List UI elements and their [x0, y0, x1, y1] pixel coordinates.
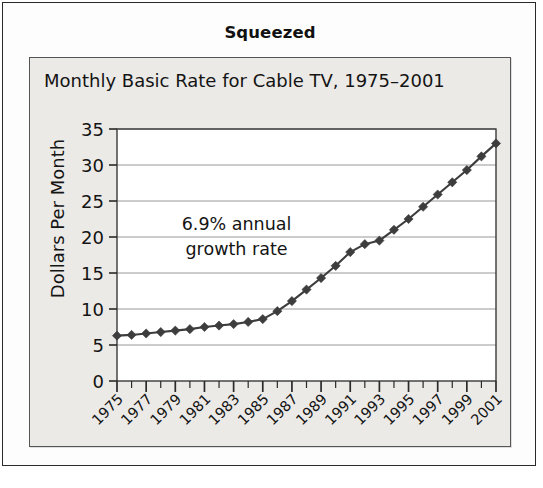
- x-axis-tick-label: 1977: [118, 391, 155, 428]
- x-axis-tick-label: 1999: [439, 391, 476, 428]
- figure-outer-frame: Squeezed Monthly Basic Rate for Cable TV…: [2, 2, 536, 466]
- x-axis-tick-label: 1985: [235, 391, 272, 428]
- x-axis-tick-label: 1987: [264, 391, 301, 428]
- gridlines-group: [117, 129, 496, 381]
- y-axis-tick-label: 5: [93, 335, 104, 356]
- annotation-line-2: growth rate: [186, 239, 288, 259]
- x-axis-tick-label: 1997: [409, 391, 446, 428]
- annotation-line-1: 6.9% annual: [182, 214, 292, 234]
- y-axis-tick-label: 25: [81, 191, 104, 212]
- y-axis-tick-label: 30: [81, 155, 104, 176]
- x-axis-tick-label: 1993: [351, 391, 388, 428]
- y-axis-tick-label: 35: [81, 119, 104, 140]
- x-axis-tick-label: 1989: [293, 391, 330, 428]
- x-axis-tick-label: 1983: [205, 391, 242, 428]
- x-axis-tick-labels-group: 1975197719791981198319851987198919911993…: [89, 391, 505, 428]
- x-axis-tick-label: 1979: [147, 391, 184, 428]
- y-axis-tick-label: 15: [81, 263, 104, 284]
- figure-title: Squeezed: [3, 23, 537, 42]
- y-axis-tick-label: 0: [93, 371, 104, 392]
- x-axis-tick-label: 1991: [322, 391, 359, 428]
- chart-panel: Monthly Basic Rate for Cable TV, 1975–20…: [29, 57, 511, 447]
- y-axis-ticks-group: 05101520253035: [81, 119, 117, 392]
- line-chart-plot: 05101520253035 1975197719791981198319851…: [30, 58, 512, 448]
- y-axis-tick-label: 20: [81, 227, 104, 248]
- y-axis-tick-label: 10: [81, 299, 104, 320]
- x-axis-tick-label: 1995: [380, 391, 417, 428]
- x-axis-tick-label: 1981: [176, 391, 213, 428]
- x-axis-tick-label: 1975: [89, 391, 126, 428]
- x-axis-tick-label: 2001: [468, 391, 505, 428]
- x-axis-ticks-group: [117, 381, 496, 392]
